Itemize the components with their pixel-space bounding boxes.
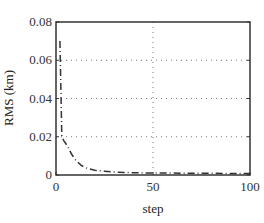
y-tick-label: 0 — [46, 167, 53, 182]
x-tick-label: 0 — [53, 179, 60, 194]
x-axis-title: step — [143, 201, 164, 216]
y-tick-label: 0.04 — [29, 91, 52, 106]
series-line-rms — [60, 41, 250, 173]
y-tick-label: 0.02 — [29, 129, 52, 144]
data-series — [60, 41, 250, 173]
grid-lines — [56, 22, 250, 175]
rms-line-chart: 00.020.040.060.08 050100 step RMS (km) — [0, 0, 264, 223]
x-tick-label: 50 — [147, 179, 160, 194]
y-axis-title: RMS (km) — [1, 70, 16, 126]
y-tick-label: 0.08 — [29, 14, 52, 29]
x-tick-label: 100 — [240, 179, 260, 194]
y-tick-label: 0.06 — [29, 52, 52, 67]
